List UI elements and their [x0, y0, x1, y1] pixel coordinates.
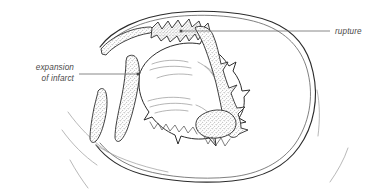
- leader-dot-expansion: [137, 73, 140, 76]
- label-expansion-line1: expansion: [36, 63, 75, 72]
- cardiac-infarct-diagram: expansion of infarct rupture: [0, 0, 375, 194]
- leader-dot-rupture: [180, 30, 183, 33]
- label-expansion-line2: of infarct: [42, 74, 75, 83]
- label-rupture: rupture: [335, 27, 362, 36]
